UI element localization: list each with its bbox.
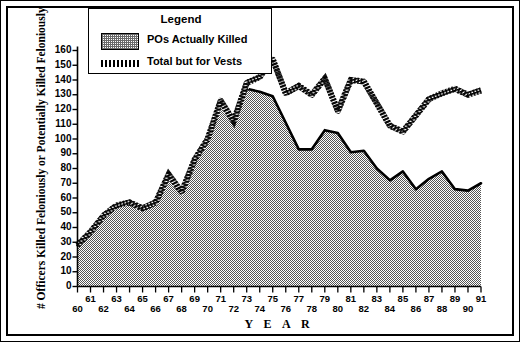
x-tick-label: 70 [198,303,218,314]
y-tick-label: 40 [28,221,72,232]
y-tick-label: 90 [28,147,72,158]
x-tick-label: 64 [120,303,140,314]
y-tick-label: 10 [28,265,72,276]
x-tick-label: 91 [471,293,491,304]
y-tick-label: 110 [28,118,72,129]
x-tick-label: 74 [250,303,270,314]
x-tick-label: 84 [380,303,400,314]
chart-figure: # Officers Killed Feloniously or Potenti… [0,0,520,342]
legend-item-pos-actually-killed: POs Actually Killed [89,32,273,52]
y-tick-label: 100 [28,133,72,144]
y-tick-label: 50 [28,206,72,217]
y-tick-label: 80 [28,162,72,173]
x-tick-label: 68 [172,303,192,314]
y-tick-label: 160 [28,44,72,55]
x-tick-label: 90 [458,303,478,314]
y-tick-label: 70 [28,177,72,188]
x-tick-label: 86 [406,303,426,314]
y-tick-label: 140 [28,74,72,85]
y-tick-label: 60 [28,192,72,203]
y-tick-label: 20 [28,251,72,262]
legend-swatch-hatched-icon [101,60,139,67]
x-tick-label: 82 [354,303,374,314]
legend-item-total-but-for-vests: Total but for Vests [89,54,273,74]
y-tick-label: 150 [28,59,72,70]
x-tick-label: 88 [432,303,452,314]
x-tick-label: 66 [146,303,166,314]
legend: Legend POs Actually Killed Total but for… [88,8,272,74]
legend-title: Legend [89,13,273,25]
x-tick-label: 62 [94,303,114,314]
legend-label: POs Actually Killed [147,33,247,45]
legend-swatch-stipple-icon [101,33,139,50]
x-tick-label: 60 [68,303,88,314]
x-tick-label: 78 [302,303,322,314]
y-tick-label: 130 [28,88,72,99]
x-tick-label: 76 [276,303,296,314]
x-tick-label: 80 [328,303,348,314]
y-tick-label: 120 [28,103,72,114]
x-tick-label: 72 [224,303,244,314]
legend-label: Total but for Vests [147,55,242,67]
y-tick-label: 0 [28,280,72,291]
area-fill-pos-actually-killed [78,89,482,287]
y-tick-label: 30 [28,236,72,247]
